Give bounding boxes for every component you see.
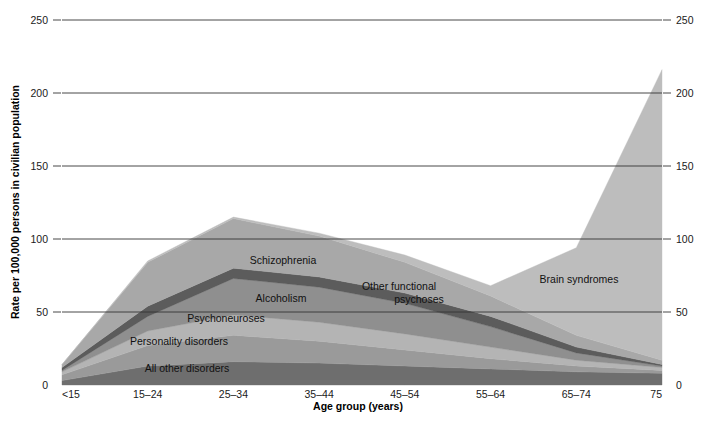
x-tick-label-0: <15 [62,388,80,400]
x-tick-label-6: 65–74 [562,388,591,400]
x-tick-label-2: 25–34 [219,388,248,400]
x-tick-label-5: 55–64 [476,388,505,400]
series-label-schizophrenia: Schizophrenia [250,254,317,266]
y-tick-label-left-0: 0 [42,379,48,391]
series-label-other-functional-psychoses2: psychoses [394,293,444,305]
x-axis-title: Age group (years) [313,400,403,412]
series-label-personality-disorders: Personality disorders [130,335,228,347]
y-tick-label-left-50: 50 [36,306,48,318]
x-tick-label-1: 15–24 [133,388,162,400]
y-axis-title: Rate per 100,000 persons in civilian pop… [9,85,21,319]
y-tick-label-left-250: 250 [30,14,48,26]
y-tick-label-left-200: 200 [30,87,48,99]
stacked-area-chart: 050100150200250 050100150200250 <1515–24… [0,0,709,429]
y-tick-label-right-0: 0 [676,379,682,391]
y-tick-label-right-200: 200 [676,87,694,99]
series-label-alcoholism: Alcoholism [256,292,307,304]
y-tick-label-right-250: 250 [676,14,694,26]
y-tick-label-left-150: 150 [30,160,48,172]
x-tick-label-3: 35–44 [305,388,334,400]
series-label-brain-syndromes: Brain syndromes [540,273,619,285]
y-tick-label-right-100: 100 [676,233,694,245]
y-tick-label-right-50: 50 [676,306,688,318]
series-label-all-other-disorders: All other disorders [145,362,230,374]
series-label-psychoneuroses: Psychoneuroses [187,312,265,324]
x-tick-label-4: 45–54 [390,388,419,400]
y-tick-label-left-100: 100 [30,233,48,245]
y-tick-label-right-150: 150 [676,160,694,172]
series-label-other-functional-psychoses: Other functional [362,280,436,292]
chart-figure: 050100150200250 050100150200250 <1515–24… [0,0,709,429]
x-tick-label-7: 75 [650,388,662,400]
